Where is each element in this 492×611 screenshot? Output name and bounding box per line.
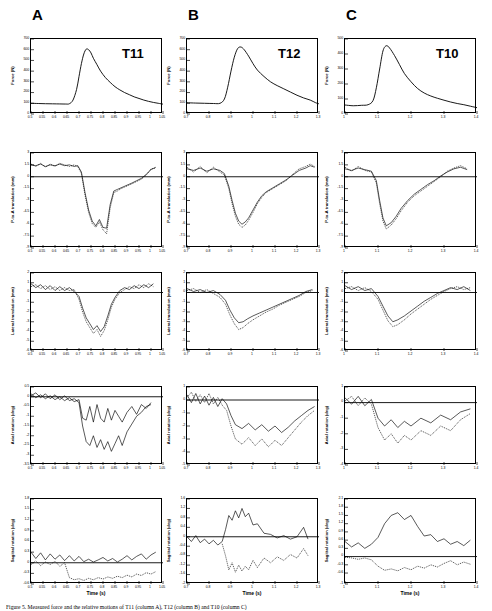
x-tick-label: 1.05 bbox=[156, 352, 168, 356]
y-tick-label: 300 bbox=[173, 79, 185, 83]
y-tick-label: 0 bbox=[173, 289, 185, 293]
y-tick-label: 0 bbox=[331, 174, 343, 178]
x-tick-label: 1.3 bbox=[437, 466, 449, 470]
x-tick-label: 1.1 bbox=[371, 585, 383, 589]
x-tick-label: 0.8 bbox=[202, 352, 214, 356]
x-tick-label: 1.2 bbox=[404, 585, 416, 589]
x-tick-label: 0.55 bbox=[36, 585, 48, 589]
x-tick-label: 1.3 bbox=[312, 352, 324, 356]
y-tick-label: 100 bbox=[173, 100, 185, 104]
x-axis-label-B5: Time (s) bbox=[186, 590, 318, 596]
series-trace-1 bbox=[187, 394, 315, 433]
y-tick-label: 0.6 bbox=[17, 538, 29, 542]
x-tick-label: 0.75 bbox=[84, 466, 96, 470]
x-tick-label: 1.3 bbox=[437, 249, 449, 253]
y-tick-label: -1 bbox=[173, 410, 185, 414]
y-tick-label: -1.5 bbox=[17, 185, 29, 189]
x-tick-label: 0.7 bbox=[180, 585, 192, 589]
y-tick-label: -4 bbox=[173, 328, 185, 332]
x-tick-label: 1.2 bbox=[404, 352, 416, 356]
series-trace-1 bbox=[31, 394, 151, 422]
x-tick-label: 0.95 bbox=[132, 352, 144, 356]
x-tick-label: 1.4 bbox=[470, 249, 482, 253]
x-tick-label: 0.9 bbox=[224, 115, 236, 119]
x-tick-label: 0.7 bbox=[72, 115, 84, 119]
x-tick-label: 1.3 bbox=[437, 115, 449, 119]
x-tick-label: 0.55 bbox=[36, 249, 48, 253]
series-trace-1 bbox=[187, 289, 312, 323]
y-tick-label: 1.5 bbox=[173, 162, 185, 166]
plot-A5 bbox=[30, 498, 162, 583]
figure-root: ABC01002003004005006007000.50.550.60.650… bbox=[0, 0, 492, 611]
figure-caption: Figure 5. Measured force and the relativ… bbox=[6, 604, 486, 610]
x-tick-label: 0.85 bbox=[108, 352, 120, 356]
x-tick-label: 0.6 bbox=[48, 466, 60, 470]
series-trace-2 bbox=[31, 561, 156, 580]
plot-canvas-A3 bbox=[31, 273, 163, 351]
plot-B5 bbox=[186, 498, 318, 583]
x-tick-label: 1 bbox=[338, 249, 350, 253]
y-tick-label: 1 bbox=[331, 384, 343, 388]
y-tick-label: -0.6 bbox=[331, 570, 343, 574]
plot-C5 bbox=[344, 498, 476, 583]
x-tick-label: 1.05 bbox=[156, 249, 168, 253]
y-tick-label: 0.3 bbox=[331, 545, 343, 549]
x-tick-label: 0.9 bbox=[120, 352, 132, 356]
y-tick-label: 0.9 bbox=[331, 529, 343, 533]
x-tick-label: 0.55 bbox=[36, 352, 48, 356]
plot-canvas-C3 bbox=[345, 273, 477, 351]
x-tick-label: 0.75 bbox=[84, 249, 96, 253]
y-tick-label: -2 bbox=[17, 433, 29, 437]
y-axis-label-C2: P-to-A translation (mm) bbox=[324, 152, 329, 247]
y-tick-label: 700 bbox=[173, 36, 185, 40]
y-tick-label: 600 bbox=[17, 47, 29, 51]
x-tick-label: 1.1 bbox=[268, 352, 280, 356]
x-tick-label: 0.8 bbox=[202, 115, 214, 119]
x-tick-label: 1 bbox=[338, 115, 350, 119]
x-tick-label: 1.1 bbox=[371, 352, 383, 356]
x-tick-label: 0.7 bbox=[72, 466, 84, 470]
y-tick-label: 3 bbox=[331, 150, 343, 154]
x-tick-label: 1.05 bbox=[156, 466, 168, 470]
x-tick-label: 0.95 bbox=[132, 466, 144, 470]
y-tick-label: -0.3 bbox=[331, 562, 343, 566]
series-trace-2 bbox=[31, 284, 153, 337]
y-axis-label-B4: Axial rotation (deg) bbox=[166, 386, 171, 464]
x-tick-label: 0.8 bbox=[202, 249, 214, 253]
y-axis-label-A5: Sagittal rotation (deg) bbox=[10, 498, 15, 583]
y-tick-label: 1.6 bbox=[173, 496, 185, 500]
plot-C2 bbox=[344, 152, 476, 247]
y-tick-label: -3 bbox=[173, 197, 185, 201]
x-tick-label: 0.7 bbox=[180, 352, 192, 356]
x-tick-label: 1 bbox=[144, 249, 156, 253]
x-tick-label: 0.65 bbox=[60, 352, 72, 356]
y-axis-label-C1: Force (N) bbox=[324, 38, 329, 113]
y-tick-label: -5 bbox=[17, 338, 29, 342]
y-tick-label: 300 bbox=[331, 66, 343, 70]
y-tick-label: 2.1 bbox=[331, 496, 343, 500]
x-tick-label: 0.85 bbox=[108, 115, 120, 119]
x-tick-label: 1.1 bbox=[268, 585, 280, 589]
y-tick-label: 0 bbox=[17, 174, 29, 178]
y-tick-label: 1.2 bbox=[331, 520, 343, 524]
x-tick-label: 0.7 bbox=[180, 466, 192, 470]
series-trace-2 bbox=[345, 396, 470, 443]
plot-canvas-A2 bbox=[31, 153, 163, 248]
y-tick-label: 500 bbox=[17, 57, 29, 61]
y-axis-label-C4: Axial rotation (deg) bbox=[324, 386, 329, 464]
x-tick-label: 1.1 bbox=[371, 466, 383, 470]
x-tick-label: 0.9 bbox=[224, 585, 236, 589]
y-tick-label: -1.5 bbox=[17, 423, 29, 427]
y-tick-label: -3 bbox=[331, 446, 343, 450]
series-trace-1 bbox=[187, 166, 315, 225]
y-tick-label: 1 bbox=[173, 280, 185, 284]
y-tick-label: -1.6 bbox=[173, 571, 185, 575]
x-tick-label: 0.9 bbox=[224, 249, 236, 253]
column-letter-B: B bbox=[188, 6, 199, 23]
x-tick-label: 0.6 bbox=[48, 585, 60, 589]
series-trace-2 bbox=[222, 544, 308, 572]
y-tick-label: -1 bbox=[17, 413, 29, 417]
series-trace-2 bbox=[187, 289, 312, 330]
series-trace-1 bbox=[187, 508, 308, 545]
y-axis-label-B1: Force (N) bbox=[166, 38, 171, 113]
